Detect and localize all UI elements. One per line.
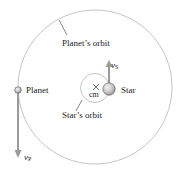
planets-orbit-leader (59, 20, 67, 35)
star-label: Star (121, 86, 136, 95)
star-velocity-label: vS (111, 61, 118, 70)
planet-label: Planet (26, 86, 49, 95)
center-of-mass-label: cm (89, 91, 99, 99)
planet-velocity-arrow-icon (15, 93, 22, 158)
star-velocity-subscript: S (115, 64, 118, 70)
planet-velocity-subscript: P (28, 156, 31, 162)
planet-body-icon (15, 87, 22, 94)
stars-orbit-label: Star’s orbit (62, 111, 102, 120)
star-body-icon (103, 83, 115, 95)
planet-velocity-label: vP (24, 153, 31, 162)
planets-orbit-label: Planet’s orbit (62, 39, 110, 48)
